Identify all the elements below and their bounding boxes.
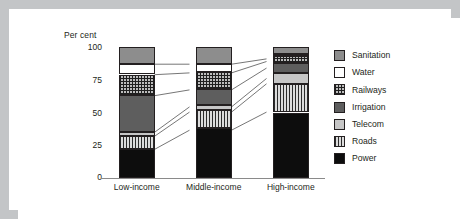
bar-middle-income[interactable]	[196, 47, 232, 178]
x-tick-middle-income: Middle-income	[181, 182, 247, 192]
legend-swatch-power-icon	[334, 153, 345, 164]
segment-middle-income-power[interactable]	[196, 128, 232, 178]
y-tick-0: 0	[78, 172, 102, 182]
legend-item-sanitation[interactable]: Sanitation	[334, 47, 454, 64]
bar-low-income[interactable]	[119, 47, 155, 178]
bar-high-income[interactable]	[273, 47, 309, 178]
chart-plot-area: Per cent 100 75 50 25 0	[0, 0, 460, 219]
segment-middle-income-railways[interactable]	[196, 72, 232, 89]
segment-low-income-roads[interactable]	[119, 136, 155, 149]
legend-item-railways[interactable]: Railways	[334, 81, 454, 98]
segment-middle-income-roads[interactable]	[196, 110, 232, 128]
legend-item-roads[interactable]: Roads	[334, 133, 454, 150]
segment-low-income-irrigation[interactable]	[119, 95, 155, 132]
segment-high-income-roads[interactable]	[273, 84, 309, 113]
legend-label-railways: Railways	[352, 86, 386, 95]
segment-high-income-telecom[interactable]	[273, 73, 309, 83]
segment-high-income-railways[interactable]	[273, 56, 309, 63]
segment-low-income-sanitation[interactable]	[119, 47, 155, 64]
legend-label-roads: Roads	[352, 137, 377, 146]
segment-high-income-irrigation[interactable]	[273, 63, 309, 73]
legend-swatch-water-icon	[334, 67, 345, 78]
legend-item-power[interactable]: Power	[334, 150, 454, 167]
legend-label-water: Water	[352, 68, 375, 77]
legend-swatch-roads-icon	[334, 136, 345, 147]
chart-legend: Sanitation Water Railways Irrigation Tel…	[334, 47, 454, 167]
legend-label-sanitation: Sanitation	[352, 51, 390, 60]
legend-swatch-irrigation-icon	[334, 102, 345, 113]
x-tick-high-income: High-income	[259, 182, 322, 192]
segment-low-income-water[interactable]	[119, 64, 155, 74]
legend-label-irrigation: Irrigation	[352, 103, 385, 112]
segment-middle-income-irrigation[interactable]	[196, 89, 232, 105]
y-tick-25: 25	[78, 140, 102, 150]
y-tick-50: 50	[78, 108, 102, 118]
segment-middle-income-water[interactable]	[196, 64, 232, 72]
legend-label-power: Power	[352, 154, 376, 163]
y-tick-75: 75	[78, 75, 102, 85]
segment-low-income-railways[interactable]	[119, 75, 155, 96]
legend-item-telecom[interactable]: Telecom	[334, 116, 454, 133]
legend-swatch-railways-icon	[334, 84, 345, 95]
legend-swatch-telecom-icon	[334, 119, 345, 130]
x-tick-low-income: Low-income	[107, 182, 167, 192]
legend-label-telecom: Telecom	[352, 120, 384, 129]
segment-low-income-power[interactable]	[119, 149, 155, 178]
legend-item-irrigation[interactable]: Irrigation	[334, 99, 454, 116]
segment-middle-income-sanitation[interactable]	[196, 47, 232, 64]
y-tick-100: 100	[78, 42, 102, 52]
legend-item-water[interactable]: Water	[334, 64, 454, 81]
x-axis-line	[101, 178, 325, 179]
y-axis-title: Per cent	[64, 30, 96, 40]
segment-high-income-power[interactable]	[273, 113, 309, 179]
legend-swatch-sanitation-icon	[334, 50, 345, 61]
